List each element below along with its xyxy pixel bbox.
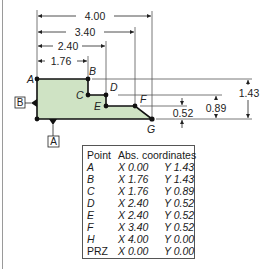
dim-4-00: 4.00: [85, 10, 106, 22]
point-c-marker: [86, 93, 91, 98]
cell-x: X 3.40: [118, 221, 164, 233]
cell-y: Y 1.43: [164, 173, 194, 185]
dim-2-40: 2.40: [58, 40, 79, 52]
cell-point: A: [87, 161, 118, 173]
point-a-marker: [35, 77, 40, 82]
table-row: E X 2.40 Y 0.52: [87, 209, 194, 221]
cell-y: Y 1.43: [164, 161, 194, 173]
point-b-marker: [86, 77, 91, 82]
cell-x: X 4.00: [118, 233, 164, 245]
header-point: Point: [87, 149, 118, 161]
table-row: C X 1.76 Y 0.89: [87, 185, 194, 197]
cell-y: Y 0.00: [164, 233, 194, 245]
cell-point: D: [87, 197, 118, 209]
table-row: B X 1.76 Y 1.43: [87, 173, 194, 185]
origin-marker: [35, 117, 40, 122]
label-e: E: [94, 100, 102, 112]
horizontal-dimension-labels: 4.00 3.40 2.40 1.76: [51, 10, 106, 67]
label-d: D: [110, 81, 118, 93]
point-e-marker: [104, 104, 109, 109]
datum-a-label: A: [50, 136, 57, 147]
label-c: C: [76, 89, 84, 101]
header-coordinates: Abs. coordinates: [118, 149, 194, 161]
cell-point: PRZ: [87, 245, 118, 257]
dim-1-76: 1.76: [51, 55, 72, 67]
vertical-dimension-labels: 1.43 0.89 0.52: [173, 87, 260, 119]
cell-x: X 2.40: [118, 197, 164, 209]
table-row: H X 4.00 Y 0.00: [87, 233, 194, 245]
table-row: F X 3.40 Y 0.52: [87, 221, 194, 233]
point-g-marker: [149, 116, 154, 121]
cell-y: Y 0.00: [164, 245, 194, 257]
cell-y: Y 0.89: [164, 185, 194, 197]
table-row: PRZ X 0.00 Y 0.00: [87, 245, 194, 257]
dim-3-40: 3.40: [75, 26, 96, 38]
datum-a: A: [48, 119, 59, 147]
coordinates-table: Point Abs. coordinates A X 0.00 Y 1.43 B…: [82, 145, 195, 259]
cell-point: F: [87, 221, 118, 233]
label-b: B: [89, 65, 96, 77]
cell-point: H: [87, 233, 118, 245]
datum-a-triangle-icon: [49, 119, 57, 125]
cell-point: E: [87, 209, 118, 221]
label-f: F: [140, 93, 147, 105]
dim-0-89: 0.89: [206, 102, 227, 114]
table-row: A X 0.00 Y 1.43: [87, 161, 194, 173]
point-d-marker: [104, 93, 109, 98]
point-f-marker: [133, 104, 138, 109]
cell-x: X 0.00: [118, 161, 164, 173]
datum-b-label: B: [17, 97, 24, 108]
cell-point: C: [87, 185, 118, 197]
cell-x: X 2.40: [118, 209, 164, 221]
cell-x: X 1.76: [118, 173, 164, 185]
dim-0-52: 0.52: [173, 107, 194, 119]
label-a: A: [26, 73, 34, 85]
label-g: G: [147, 123, 155, 135]
cell-x: X 0.00: [118, 245, 164, 257]
cell-y: Y 0.52: [164, 197, 194, 209]
cell-point: B: [87, 173, 118, 185]
dim-1-43: 1.43: [239, 87, 260, 99]
datum-b: B: [15, 97, 37, 108]
table-header: Point Abs. coordinates: [87, 149, 194, 161]
cell-y: Y 0.52: [164, 209, 194, 221]
table-row: D X 2.40 Y 0.52: [87, 197, 194, 209]
cell-y: Y 0.52: [164, 221, 194, 233]
cell-x: X 1.76: [118, 185, 164, 197]
datum-b-triangle-icon: [31, 99, 37, 107]
